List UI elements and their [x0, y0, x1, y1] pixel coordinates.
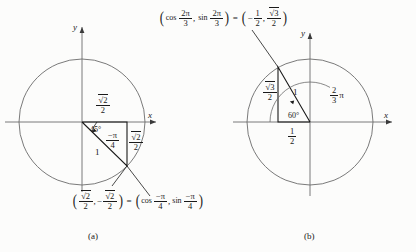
panel-a-eq-rparen: ) [119, 197, 123, 205]
panel-b-eq-cos-num: 2π [179, 9, 192, 18]
panel-a-eq-cos: cos [141, 197, 152, 205]
panel-a-x-axis-label: x [148, 110, 152, 120]
panel-b-x-axis-arrow [386, 120, 392, 125]
panel-a-eq-lparen-2: ( [135, 197, 139, 205]
panel-a-eq-minus: − [97, 197, 102, 206]
panel-a-vert-den: 2 [129, 142, 143, 152]
panel-a-horizontal-leg-label: √2 2 [96, 96, 110, 114]
panel-a-vert-num: √2 [131, 131, 141, 142]
panel-b-hypotenuse-label: 1 [293, 88, 298, 97]
panel-a-eq-lx-den: 2 [79, 201, 93, 211]
panel-a-angle-degree-label: 45° [90, 126, 101, 134]
panel-b-caption: (b) [304, 231, 315, 241]
panel-a-y-axis-label: y [73, 22, 77, 32]
panel-a-eq-sin-den: 4 [184, 201, 197, 211]
panel-a-eq-lx-num: √2 [81, 190, 91, 201]
panel-a-equation: ( √2 2 , − √2 2 ) = ( cos −π 4 , sin −π [72, 192, 203, 210]
panel-b-eq-rx-num: 1 [254, 9, 262, 18]
panel-a-eq-rparen-2: ) [198, 197, 202, 205]
panel-a-y-axis-arrow [80, 27, 85, 33]
panel-a-eq-cos-den: 4 [154, 201, 167, 211]
panel-b-equation: ( cos 2π 3 , sin 2π 3 ) = ( − 1 2 , √3 [159, 9, 288, 27]
panel-b-eq-lparen-2: ( [241, 14, 245, 22]
panel-a-eq-equals: = [125, 197, 134, 206]
panel-b-angle-degree-label: 60° [288, 112, 299, 120]
panel-b-horiz-num: 1 [288, 127, 296, 136]
panel-a-eq-comma-2: , [168, 197, 170, 206]
panel-b-arc-den: 3 [330, 95, 338, 105]
panel-b-arc-num: 2 [330, 86, 338, 95]
panel-b-y-axis-arrow [308, 33, 313, 39]
panel-b-x-axis-label: x [384, 110, 388, 120]
panel-b-eq-sin-den: 3 [210, 18, 223, 28]
panel-b-horizontal-leg-label: 1 2 [288, 127, 296, 145]
panel-a-eq-ly-den: 2 [103, 201, 117, 211]
panel-b-eq-minus: − [247, 14, 252, 23]
trig-unit-circle-figure [0, 0, 416, 252]
panel-a-reference-triangle [82, 122, 127, 166]
panel-a-rad-num: −π [106, 131, 119, 140]
panel-a-vertical-leg-label: √2 2 [129, 133, 143, 151]
panel-b-vertical-leg-label: √3 2 [263, 83, 277, 101]
panel-b-eq-ry-num: √3 [269, 7, 279, 18]
panel-a-horiz-den: 2 [96, 105, 110, 115]
panel-a-x-axis-arrow [150, 120, 156, 125]
panel-a-horiz-num: √2 [98, 94, 108, 105]
panel-b-eq-lparen: ( [160, 14, 164, 22]
panel-a-angle-radian-label: −π 4 [106, 131, 119, 149]
panel-b-eq-equals: = [231, 14, 240, 23]
figure-stage: x y √2 2 √2 2 45° −π 4 1 ( √2 2 , [0, 0, 416, 252]
panel-a-caption: (a) [88, 231, 98, 241]
panel-b-vert-den: 2 [263, 92, 277, 102]
panel-b-eq-cos: cos [166, 14, 177, 22]
panel-a-rad-den: 4 [106, 140, 119, 150]
panel-b-eq-cos-den: 3 [179, 18, 192, 28]
panel-b-eq-ry-den: 2 [267, 18, 281, 28]
panel-b-eq-rparen: ) [225, 14, 229, 22]
panel-a-eq-ly-num: √2 [105, 190, 115, 201]
panel-b-leader-line [252, 30, 278, 67]
panel-a-eq-cos-num: −π [154, 192, 167, 201]
panel-b-eq-sin: sin [198, 14, 207, 22]
panel-b-eq-rparen-2: ) [283, 14, 287, 22]
panel-b-eq-comma-1: , [193, 14, 195, 23]
panel-b-eq-rx-den: 2 [254, 18, 262, 28]
panel-b-y-axis-label: y [301, 28, 305, 38]
panel-a-eq-sin: sin [172, 197, 181, 205]
panel-b-arc-pi: π [339, 91, 344, 100]
panel-b-angle-arc [270, 82, 330, 122]
panel-b-vert-num: √3 [265, 81, 275, 92]
panel-a-hypotenuse-label: 1 [95, 148, 100, 157]
panel-b-eq-comma-2: , [263, 14, 265, 23]
panel-b-angle-arc-arrow [290, 101, 294, 105]
panel-b-arc-angle-label: 2 3 π [330, 86, 344, 104]
panel-a-eq-lparen: ( [73, 197, 77, 205]
panel-b-horiz-den: 2 [288, 136, 296, 146]
panel-a-eq-comma-1: , [94, 197, 96, 206]
panel-a-eq-sin-num: −π [184, 192, 197, 201]
panel-b-eq-sin-num: 2π [210, 9, 223, 18]
